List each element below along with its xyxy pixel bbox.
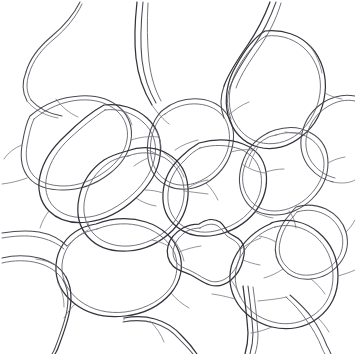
figure-background (0, 0, 355, 354)
cell-tissue-figure (0, 0, 355, 354)
cell-tissue-drawing (0, 0, 355, 354)
